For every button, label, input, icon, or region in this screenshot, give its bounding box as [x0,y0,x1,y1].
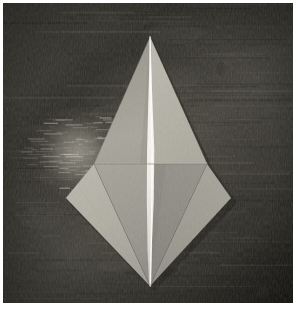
photo-page [0,0,303,314]
photograph [3,3,293,303]
photo-vignette-overlay [3,3,293,303]
origami-scene [3,3,293,303]
